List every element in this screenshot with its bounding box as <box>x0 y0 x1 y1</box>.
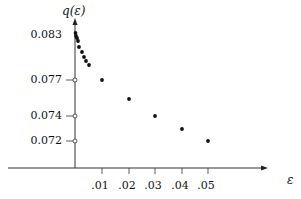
data-points <box>74 31 210 143</box>
x-tick-label: .02 <box>115 180 139 192</box>
x-tick-label: .03 <box>141 180 165 192</box>
y-axis-arrow-icon <box>73 18 78 25</box>
y-tick-label: 0.074 <box>10 110 62 122</box>
x-axis-title: ε <box>287 174 293 186</box>
x-tick-label: .01 <box>88 180 112 192</box>
x-ticks <box>102 168 208 174</box>
y-tick-label: 0.072 <box>10 135 62 147</box>
x-tick-label: .05 <box>194 180 218 192</box>
y-tick-label: 0.077 <box>10 74 62 86</box>
y-axis-title: q(ε) <box>62 5 85 17</box>
x-tick-label: .04 <box>168 180 192 192</box>
y-tick-label: 0.083 <box>10 29 62 41</box>
x-axis-arrow-icon <box>261 166 268 171</box>
